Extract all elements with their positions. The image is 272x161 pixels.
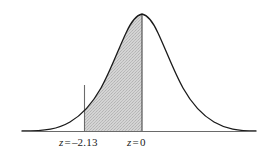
mean-value: 0 [140,136,146,148]
mean-relation: = [131,136,139,148]
lower-bound-axis-label: z=–2.13 [59,136,98,148]
lower-bound-value: –2.13 [72,136,98,148]
mean-axis-label: z=0 [127,136,146,148]
lower-bound-relation: = [63,136,71,148]
normal-distribution-figure: z=–2.13 z=0 [0,0,272,161]
